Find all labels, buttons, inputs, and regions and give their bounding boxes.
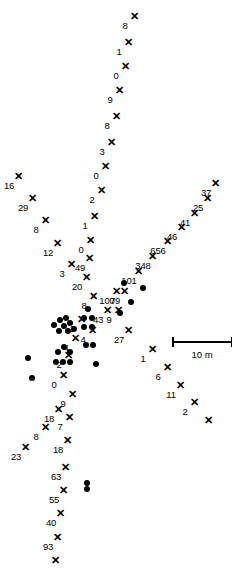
data-point-label: 16 xyxy=(4,181,14,191)
scatter-plot-canvas: ✕8✕1✕0✕9✕8✕3✕0✕2✕1✕0✕49✕20✕16✕29✕8✕12✕3✕… xyxy=(0,0,245,588)
nest-dot xyxy=(71,326,77,332)
data-point-label: 20 xyxy=(72,282,82,292)
data-point-marker: ✕ xyxy=(190,208,199,219)
data-point-marker: ✕ xyxy=(56,508,65,519)
nest-dot xyxy=(61,344,67,350)
data-point-label: 6 xyxy=(155,372,160,382)
data-point-label: 23 xyxy=(11,452,21,462)
data-point-label: 0 xyxy=(113,71,118,81)
data-point-marker: ✕ xyxy=(115,85,124,96)
data-point-marker: ✕ xyxy=(14,171,23,182)
data-point-marker: ✕ xyxy=(41,422,50,433)
data-point-marker: ✕ xyxy=(41,215,50,226)
nest-dot xyxy=(117,310,123,316)
data-point-marker: ✕ xyxy=(63,435,72,446)
data-point-label: 63 xyxy=(51,472,61,482)
nest-dot xyxy=(53,359,59,365)
data-point-marker: ✕ xyxy=(204,415,213,426)
data-point-marker: ✕ xyxy=(211,178,220,189)
data-point-label: 8 xyxy=(122,21,127,31)
data-point-marker: ✕ xyxy=(190,397,199,408)
data-point-marker: ✕ xyxy=(124,37,133,48)
nest-dot xyxy=(93,361,99,367)
data-point-marker: ✕ xyxy=(86,235,95,246)
data-point-label: 55 xyxy=(49,495,59,505)
data-point-label: 3 xyxy=(59,269,64,279)
data-point-marker: ✕ xyxy=(82,272,91,283)
data-point-marker: ✕ xyxy=(107,137,116,148)
data-point-label: 0 xyxy=(93,171,98,181)
data-point-label: 12 xyxy=(43,248,53,258)
data-point-marker: ✕ xyxy=(203,193,212,204)
nest-dot xyxy=(84,486,90,492)
data-point-label: 3 xyxy=(99,147,104,157)
data-point-marker: ✕ xyxy=(54,404,63,415)
data-point-label: 2 xyxy=(182,407,187,417)
data-point-marker: ✕ xyxy=(53,532,62,543)
nest-dot xyxy=(29,375,35,381)
data-point-marker: ✕ xyxy=(28,193,37,204)
data-point-label: 27 xyxy=(114,335,124,345)
nest-dot xyxy=(67,320,73,326)
nest-dot xyxy=(89,324,95,330)
data-point-label: 9 xyxy=(106,315,111,325)
data-point-marker: ✕ xyxy=(67,259,76,270)
data-point-label: 0 xyxy=(78,245,83,255)
data-point-label: 7 xyxy=(57,422,62,432)
data-point-marker: ✕ xyxy=(163,362,172,373)
nest-dot xyxy=(89,315,95,321)
data-point-marker: ✕ xyxy=(61,462,70,473)
data-point-marker: ✕ xyxy=(51,555,60,566)
scale-bar-cap-left xyxy=(172,337,174,347)
scale-bar-label: 10 m xyxy=(172,349,232,360)
scale-bar-line xyxy=(172,341,232,343)
data-point-marker: ✕ xyxy=(121,61,130,72)
data-point-label: 40 xyxy=(46,518,56,528)
nest-dot xyxy=(60,359,66,365)
data-point-label: 29 xyxy=(18,203,28,213)
data-point-marker: ✕ xyxy=(176,380,185,391)
data-point-marker: ✕ xyxy=(130,11,139,22)
data-point-marker: ✕ xyxy=(65,412,74,423)
data-point-marker: ✕ xyxy=(85,253,94,264)
data-point-marker: ✕ xyxy=(101,161,110,172)
nest-dot xyxy=(25,355,31,361)
nest-dot xyxy=(55,349,61,355)
data-point-marker: ✕ xyxy=(71,333,80,344)
data-point-label: 1 xyxy=(116,47,121,57)
data-point-marker: ✕ xyxy=(59,485,68,496)
data-point-label: 2 xyxy=(89,195,94,205)
nest-dot xyxy=(81,315,87,321)
data-point-label: 1 xyxy=(82,221,87,231)
data-point-marker: ✕ xyxy=(97,185,106,196)
data-point-label: 8 xyxy=(33,432,38,442)
data-point-marker: ✕ xyxy=(148,344,157,355)
data-point-label: 1 xyxy=(140,354,145,364)
nest-dot xyxy=(140,285,146,291)
nest-dot xyxy=(128,299,134,305)
data-point-marker: ✕ xyxy=(112,111,121,122)
data-point-label: 9 xyxy=(107,95,112,105)
data-point-label: 8 xyxy=(33,225,38,235)
data-point-label: 8 xyxy=(104,121,109,131)
data-point-marker: ✕ xyxy=(177,222,186,233)
data-point-marker: ✕ xyxy=(120,286,129,297)
data-point-label: 18 xyxy=(53,445,63,455)
data-point-label: 11 xyxy=(166,390,175,400)
nest-dot xyxy=(56,328,62,334)
nest-dot xyxy=(85,306,91,312)
nest-dot xyxy=(121,280,127,286)
data-point-marker: ✕ xyxy=(53,238,62,249)
data-point-marker: ✕ xyxy=(124,325,133,336)
data-point-marker: ✕ xyxy=(89,291,98,302)
nest-dot xyxy=(67,359,73,365)
data-point-label: 93 xyxy=(43,542,53,552)
data-point-marker: ✕ xyxy=(68,389,77,400)
data-point-marker: ✕ xyxy=(90,211,99,222)
nest-dot xyxy=(83,342,89,348)
nest-dot xyxy=(51,322,57,328)
data-point-marker: ✕ xyxy=(59,370,68,381)
nest-dot xyxy=(81,324,87,330)
data-point-label: 0 xyxy=(51,380,56,390)
data-point-marker: ✕ xyxy=(21,442,30,453)
